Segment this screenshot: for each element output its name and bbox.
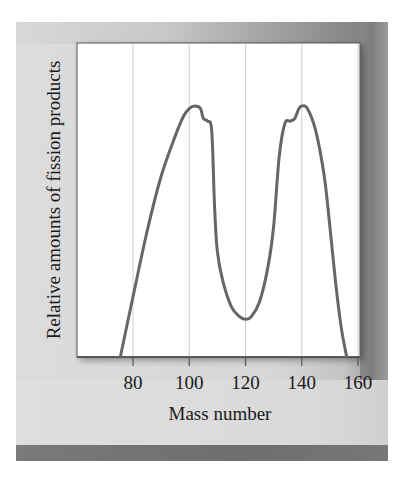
plot-background — [77, 43, 360, 357]
x-tick-label: 160 — [344, 372, 373, 394]
y-axis-label: Relative amounts of fission products — [43, 61, 65, 340]
x-tick-label: 140 — [288, 372, 317, 394]
x-tick-label: 80 — [124, 372, 143, 394]
x-tick-label: 100 — [175, 372, 204, 394]
x-tick-label: 120 — [231, 372, 260, 394]
x-ticks — [133, 357, 358, 366]
x-axis-label: Mass number — [169, 403, 272, 425]
